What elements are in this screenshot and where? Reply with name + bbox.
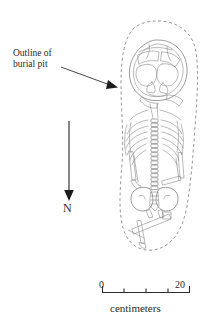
cervical-vertebrae	[150, 104, 158, 118]
burial-plan-figure: Outline of burial pit N 0 20 centimeters	[0, 0, 208, 325]
burial-pit-callout-label: Outline of burial pit	[13, 48, 52, 70]
pelvis	[131, 187, 178, 211]
scale-bar-min-label: 0	[99, 279, 104, 290]
leg-bones	[128, 210, 171, 248]
ribcage-left	[125, 120, 148, 165]
callout-arrow	[61, 67, 118, 89]
scale-bar-units-label: centimeters	[110, 303, 161, 314]
skeleton-drawing	[125, 40, 187, 248]
callout-label-line2: burial pit	[13, 59, 52, 70]
scale-bar-max-label: 20	[175, 279, 185, 290]
callout-label-line1: Outline of	[13, 48, 52, 59]
north-arrow-label: N	[63, 203, 72, 214]
ribcage-right	[161, 120, 183, 165]
clavicles	[130, 110, 181, 120]
cranium	[129, 40, 187, 101]
vertebral-column	[151, 119, 158, 190]
north-arrow	[64, 121, 74, 201]
